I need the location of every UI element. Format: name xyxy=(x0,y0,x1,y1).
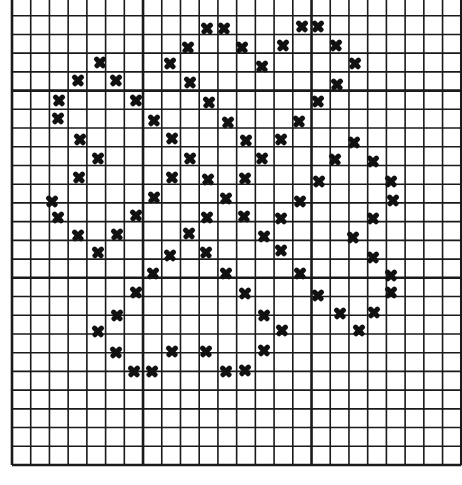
cross-stitch-x-icon xyxy=(328,37,344,53)
cross-stitch-x-icon xyxy=(310,287,326,303)
cross-stitch-x-icon xyxy=(128,92,144,108)
cross-stitch-x-icon xyxy=(274,322,290,338)
cross-stitch-x-icon xyxy=(256,228,272,244)
cross-stitch-x-icon xyxy=(310,93,326,109)
cross-stitch-x-icon xyxy=(351,322,367,338)
cross-stitch-x-icon xyxy=(164,130,180,146)
cross-stitch-x-icon xyxy=(182,150,198,166)
cross-stitch-x-icon xyxy=(292,193,308,209)
cross-stitch-x-icon xyxy=(218,190,234,206)
cross-stitch-x-icon xyxy=(146,189,162,205)
cross-stitch-x-icon xyxy=(146,112,162,128)
cross-stitch-x-icon xyxy=(291,113,307,129)
cross-stitch-x-icon xyxy=(311,173,327,189)
cross-stitch-x-icon xyxy=(345,229,361,245)
cross-stitch-x-icon xyxy=(254,58,270,74)
cross-stitch-x-icon xyxy=(44,193,60,209)
cross-stitch-x-icon xyxy=(50,110,66,126)
cross-stitch-x-icon xyxy=(237,285,253,301)
cross-stitch-x-icon xyxy=(72,131,88,147)
cross-stitch-x-icon xyxy=(383,267,399,283)
cross-stitch-x-icon xyxy=(181,225,197,241)
cross-stitch-x-icon xyxy=(145,265,161,281)
cross-stitch-x-icon xyxy=(164,343,180,359)
cross-stitch-x-icon xyxy=(256,307,272,323)
cross-stitch-x-icon xyxy=(162,247,178,263)
cross-stitch-x-icon xyxy=(200,171,216,187)
cross-stitch-x-icon xyxy=(70,227,86,243)
cross-stitch-chart xyxy=(0,0,462,485)
cross-stitch-x-icon xyxy=(198,244,214,260)
cross-stitch-x-icon xyxy=(254,150,270,166)
cross-stitch-x-icon xyxy=(218,363,234,379)
cross-stitch-x-icon xyxy=(109,226,125,242)
cross-stitch-x-icon xyxy=(292,265,308,281)
cross-stitch-x-icon xyxy=(182,74,198,90)
cross-stitch-x-icon xyxy=(70,72,86,88)
cross-stitch-x-icon xyxy=(329,76,345,92)
cross-stitch-x-icon xyxy=(234,39,250,55)
cross-stitch-x-icon xyxy=(51,92,67,108)
cross-stitch-x-icon xyxy=(385,192,401,208)
cross-stitch-x-icon xyxy=(273,242,289,258)
cross-stitch-x-icon xyxy=(216,20,232,36)
cross-stitch-x-icon xyxy=(126,363,142,379)
cross-stitch-x-icon xyxy=(201,94,217,110)
cross-stitch-x-icon xyxy=(275,37,291,53)
cross-stitch-x-icon xyxy=(383,173,399,189)
cross-stitch-x-icon xyxy=(90,150,106,166)
cross-stitch-x-icon xyxy=(199,20,215,36)
cross-stitch-x-icon xyxy=(50,209,66,225)
cross-stitch-x-icon xyxy=(90,244,106,260)
cross-stitch-x-icon xyxy=(327,151,343,167)
cross-stitch-x-icon xyxy=(294,18,310,34)
cross-stitch-x-icon xyxy=(128,207,144,223)
cross-stitch-x-icon xyxy=(144,363,160,379)
cross-stitch-x-icon xyxy=(108,344,124,360)
cross-stitch-x-icon xyxy=(109,307,125,323)
cross-stitch-x-icon xyxy=(220,114,236,130)
cross-stitch-x-icon xyxy=(365,153,381,169)
cross-stitch-x-icon xyxy=(164,169,180,185)
cross-stitch-x-icon xyxy=(236,208,252,224)
cross-stitch-x-icon xyxy=(238,132,254,148)
cross-stitch-x-icon xyxy=(128,284,144,300)
cross-stitch-x-icon xyxy=(199,209,215,225)
cross-stitch-x-icon xyxy=(256,342,272,358)
cross-stitch-x-icon xyxy=(346,134,362,150)
cross-stitch-x-icon xyxy=(90,323,106,339)
cross-stitch-x-icon xyxy=(383,284,399,300)
cross-stitch-x-icon xyxy=(108,72,124,88)
cross-stitch-x-icon xyxy=(237,170,253,186)
cross-stitch-x-icon xyxy=(347,55,363,71)
cross-stitch-x-icon xyxy=(366,304,382,320)
cross-stitch-x-icon xyxy=(198,343,214,359)
cross-stitch-x-icon xyxy=(273,131,289,147)
cross-stitch-x-icon xyxy=(310,18,326,34)
stitch-marks xyxy=(0,0,462,485)
cross-stitch-x-icon xyxy=(71,169,87,185)
cross-stitch-x-icon xyxy=(218,265,234,281)
cross-stitch-x-icon xyxy=(92,54,108,70)
cross-stitch-x-icon xyxy=(237,362,253,378)
cross-stitch-x-icon xyxy=(332,305,348,321)
cross-stitch-x-icon xyxy=(273,210,289,226)
cross-stitch-x-icon xyxy=(365,249,381,265)
cross-stitch-x-icon xyxy=(180,39,196,55)
cross-stitch-x-icon xyxy=(365,210,381,226)
cross-stitch-x-icon xyxy=(162,55,178,71)
